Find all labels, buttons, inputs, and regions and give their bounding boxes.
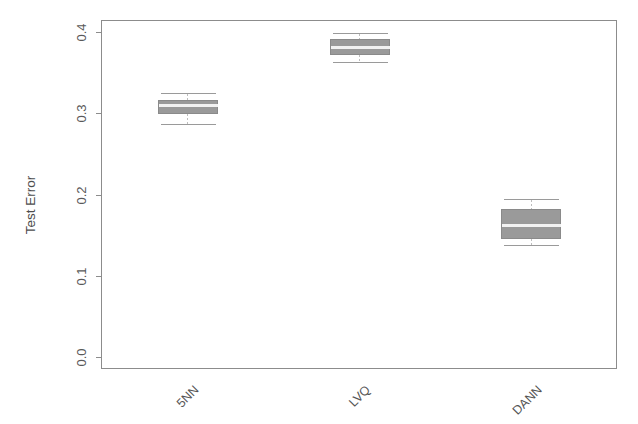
- y-axis-title: Test Error: [23, 175, 38, 234]
- box-5nn: [159, 94, 218, 125]
- plot-frame: [102, 21, 617, 369]
- y-axis-ticks: 0.00.10.20.30.4: [74, 23, 101, 366]
- boxplot-figure: 0.00.10.20.30.4 Test Error 5NNLVQDANN: [0, 0, 638, 424]
- y-tick-label-2: 0.2: [74, 186, 89, 204]
- box-series: [159, 34, 561, 246]
- plot-canvas: 0.00.10.20.30.4 Test Error 5NNLVQDANN: [0, 0, 638, 424]
- y-tick-label-3: 0.3: [74, 104, 89, 122]
- x-axis-labels: 5NNLVQDANN: [174, 383, 545, 418]
- y-tick-label-1: 0.1: [74, 267, 89, 285]
- x-label-dann: DANN: [510, 383, 545, 418]
- box-dann: [502, 200, 561, 246]
- y-tick-label-4: 0.4: [74, 23, 89, 41]
- y-tick-label-0: 0.0: [74, 348, 89, 366]
- x-label-5nn: 5NN: [174, 383, 202, 411]
- x-label-lvq: LVQ: [346, 383, 373, 410]
- box-lvq: [331, 34, 390, 63]
